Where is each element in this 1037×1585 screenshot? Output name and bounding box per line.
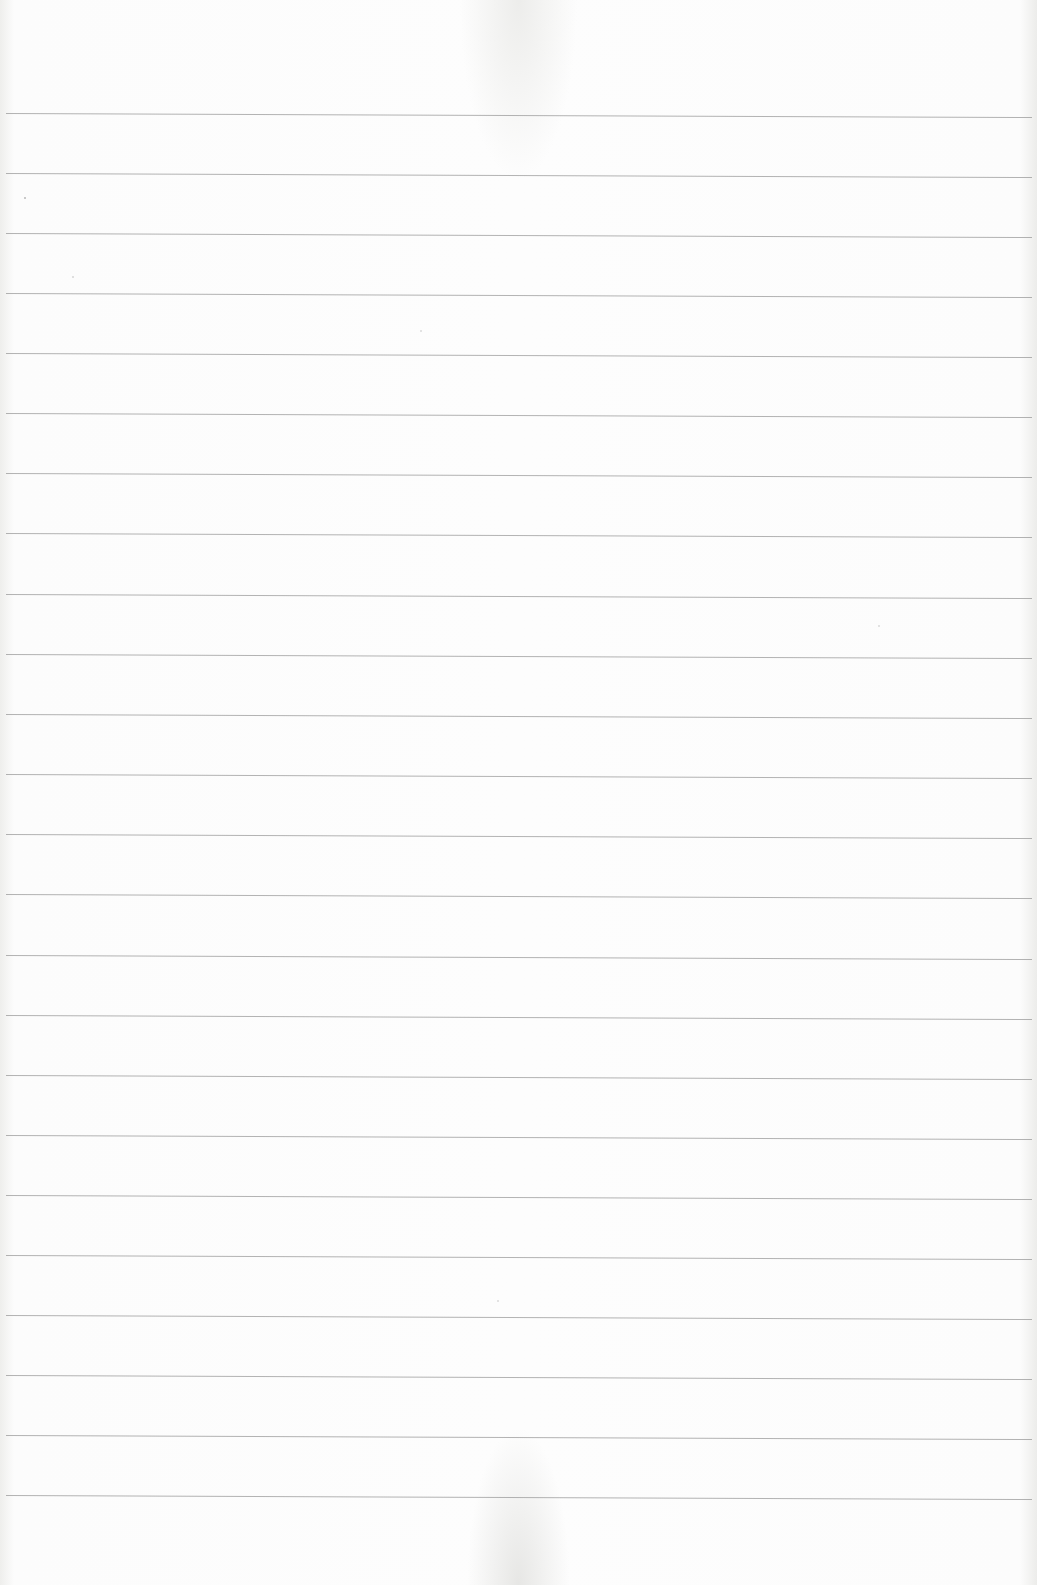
rule-line	[6, 353, 1032, 358]
rule-line	[6, 533, 1032, 538]
rule-line	[6, 714, 1032, 719]
rule-line	[6, 594, 1032, 599]
rule-line	[6, 834, 1032, 839]
rule-line	[6, 1075, 1032, 1080]
rule-line	[6, 1135, 1032, 1140]
rule-line	[6, 1015, 1032, 1020]
rule-line	[6, 1255, 1032, 1260]
paper-speck	[497, 1300, 499, 1302]
paper-speck	[24, 197, 26, 199]
rule-line	[6, 654, 1032, 659]
rule-line	[6, 293, 1032, 298]
rule-line	[6, 413, 1032, 418]
rule-line	[6, 1315, 1032, 1320]
paper-speck	[420, 330, 422, 332]
lined-paper-sheet	[0, 0, 1037, 1585]
rule-line	[6, 1495, 1032, 1500]
rule-line	[6, 1375, 1032, 1380]
paper-speck	[72, 276, 74, 278]
rule-line	[6, 1195, 1032, 1200]
rule-line	[6, 955, 1032, 960]
rule-line	[6, 233, 1032, 238]
rule-line	[6, 473, 1032, 478]
rule-line	[6, 113, 1032, 118]
rule-line	[6, 894, 1032, 899]
rule-line	[6, 774, 1032, 779]
rule-line	[6, 173, 1032, 178]
rule-line	[6, 1435, 1032, 1440]
paper-speck	[878, 625, 880, 627]
